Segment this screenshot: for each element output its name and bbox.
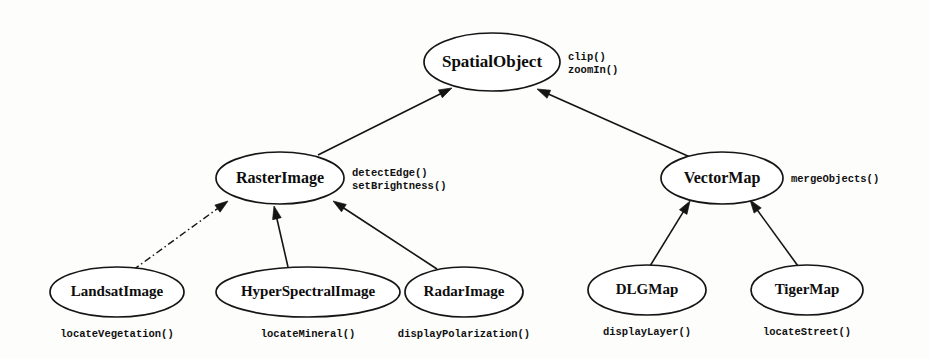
class-hierarchy-diagram: SpatialObjectclip()zoomIn()RasterImagede… bbox=[0, 0, 929, 359]
method-label: clip() bbox=[568, 51, 606, 63]
class-node-raster-image[interactable]: RasterImagedetectEdge()setBrightness() bbox=[216, 152, 447, 204]
edge-shaft bbox=[650, 210, 684, 266]
class-name-label: DLGMap bbox=[616, 281, 679, 297]
class-node-spatial-object[interactable]: SpatialObjectclip()zoomIn() bbox=[424, 33, 618, 91]
edge-shaft bbox=[318, 93, 443, 155]
method-label: detectEdge() bbox=[352, 167, 428, 179]
class-name-label: VectorMap bbox=[684, 169, 761, 187]
class-name-label: SpatialObject bbox=[442, 52, 542, 71]
edge-shaft bbox=[342, 207, 437, 269]
method-label: mergeObjects() bbox=[791, 173, 879, 185]
method-label: locateMineral() bbox=[261, 328, 356, 340]
arrowhead-icon bbox=[537, 89, 551, 98]
method-label: displayLayer() bbox=[603, 326, 691, 338]
class-node-landsat-image[interactable]: LandsatImagelocateVegetation() bbox=[50, 267, 184, 340]
inheritance-edge-vector-to-spatial bbox=[537, 89, 690, 157]
arrowhead-icon bbox=[750, 200, 761, 213]
method-label: setBrightness() bbox=[352, 180, 447, 192]
method-list: clip()zoomIn() bbox=[568, 51, 618, 76]
inheritance-edge-tiger-to-vector bbox=[750, 200, 798, 266]
edge-shaft bbox=[547, 93, 690, 157]
inheritance-edge-radar-to-raster bbox=[333, 201, 437, 269]
method-list: displayLayer() bbox=[603, 326, 691, 338]
inheritance-edge-dlg-to-vector bbox=[650, 201, 690, 266]
arrowhead-icon bbox=[679, 201, 690, 214]
class-name-label: HyperSpectralImage bbox=[241, 283, 375, 299]
node-layer: SpatialObjectclip()zoomIn()RasterImagede… bbox=[50, 33, 879, 340]
method-list: locateStreet() bbox=[763, 326, 851, 338]
method-list: displayPolarization() bbox=[398, 328, 530, 340]
class-name-label: RadarImage bbox=[424, 283, 505, 299]
inheritance-edge-hyperspectral-to-raster bbox=[273, 206, 288, 267]
diagram-canvas: SpatialObjectclip()zoomIn()RasterImagede… bbox=[0, 0, 929, 359]
arrowhead-icon bbox=[215, 201, 228, 212]
class-node-dlg-map[interactable]: DLGMapdisplayLayer() bbox=[588, 265, 706, 338]
method-list: locateMineral() bbox=[261, 328, 356, 340]
method-label: locateVegetation() bbox=[60, 328, 173, 340]
edge-shaft bbox=[276, 216, 288, 267]
arrowhead-icon bbox=[333, 201, 346, 212]
arrowhead-icon bbox=[438, 88, 452, 98]
class-name-label: RasterImage bbox=[236, 169, 324, 187]
method-label: displayPolarization() bbox=[398, 328, 530, 340]
arrowhead-icon bbox=[273, 206, 282, 220]
edge-shaft bbox=[133, 207, 220, 270]
method-list: detectEdge()setBrightness() bbox=[352, 167, 447, 192]
inheritance-edge-raster-to-spatial bbox=[318, 88, 452, 155]
class-name-label: LandsatImage bbox=[71, 283, 164, 299]
class-node-vector-map[interactable]: VectorMapmergeObjects() bbox=[661, 152, 879, 204]
method-list: mergeObjects() bbox=[791, 173, 879, 185]
class-name-label: TigerMap bbox=[775, 281, 840, 297]
method-label: zoomIn() bbox=[568, 64, 618, 76]
class-node-radar-image[interactable]: RadarImagedisplayPolarization() bbox=[398, 267, 530, 340]
edge-shaft bbox=[756, 208, 798, 266]
method-list: locateVegetation() bbox=[60, 328, 173, 340]
inheritance-edge-landsat-to-raster bbox=[133, 201, 228, 270]
method-label: locateStreet() bbox=[763, 326, 851, 338]
class-node-hyper-spectral-image[interactable]: HyperSpectralImagelocateMineral() bbox=[216, 267, 400, 340]
class-node-tiger-map[interactable]: TigerMaplocateStreet() bbox=[751, 265, 863, 338]
